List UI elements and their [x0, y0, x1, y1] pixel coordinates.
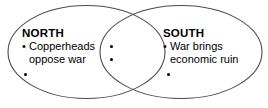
south-item-1-line-1: •War brings: [163, 40, 238, 53]
north-label-group: NORTH •Copperheads oppose war: [22, 27, 95, 65]
south-label-group: SOUTH •War brings economic ruin: [163, 27, 238, 65]
south-heading: SOUTH: [163, 27, 238, 39]
south-item-1-line-1-text: War brings: [170, 40, 223, 52]
north-item-1-line-2-text: oppose war: [29, 53, 86, 65]
south-item-1-line-2: economic ruin: [163, 53, 238, 66]
venn-diagram-container: NORTH •Copperheads oppose war SOUTH •War…: [0, 0, 268, 108]
north-item-1-line-2: oppose war: [22, 53, 95, 66]
north-item-1-line-1: •Copperheads: [22, 40, 95, 53]
bullet-dot-icon: •: [22, 40, 29, 53]
north-heading: NORTH: [22, 27, 95, 39]
north-item-1: •Copperheads oppose war: [22, 40, 95, 65]
south-item-1-line-2-text: economic ruin: [170, 53, 238, 65]
south-item-1: •War brings economic ruin: [163, 40, 238, 65]
north-item-1-line-1-text: Copperheads: [29, 40, 95, 52]
bullet-dot-icon: •: [163, 40, 170, 53]
